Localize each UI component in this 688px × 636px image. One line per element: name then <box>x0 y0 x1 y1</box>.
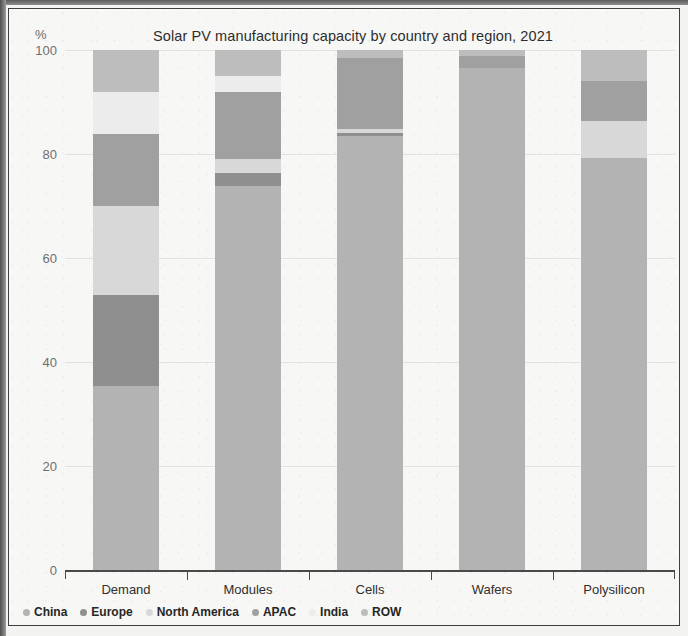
bar-segment-north-america <box>581 121 647 158</box>
bar-segment-north-america <box>215 159 281 173</box>
bar-polysilicon <box>581 50 647 570</box>
legend-label: China <box>34 605 67 619</box>
bar-demand <box>93 50 159 570</box>
bar-segment-row <box>93 50 159 92</box>
bar-segment-apac <box>93 134 159 206</box>
legend-swatch-icon <box>252 609 259 616</box>
x-axis-label-modules: Modules <box>223 582 272 597</box>
bar-segment-row <box>581 50 647 81</box>
x-axis-end-cap <box>65 570 66 579</box>
legend-swatch-icon <box>309 609 316 616</box>
x-axis-tick <box>309 571 310 580</box>
x-axis-line <box>65 570 675 572</box>
bar-segment-europe <box>337 133 403 136</box>
x-axis-label-wafers: Wafers <box>472 582 513 597</box>
legend-swatch-icon <box>146 609 153 616</box>
legend-item-apac[interactable]: APAC <box>252 605 296 619</box>
legend-item-row[interactable]: ROW <box>361 605 401 619</box>
plot-area: 020406080100 DemandModulesCellsWafersPol… <box>65 50 675 570</box>
bar-segment-india <box>215 76 281 92</box>
bar-segment-china <box>337 136 403 570</box>
bar-segment-row <box>337 50 403 58</box>
x-axis-label-cells: Cells <box>356 582 385 597</box>
bar-segment-apac <box>337 58 403 129</box>
bar-segment-apac <box>215 92 281 160</box>
bar-segment-china <box>93 386 159 570</box>
y-axis-tick-label: 20 <box>43 459 57 474</box>
y-axis-line <box>65 50 66 570</box>
legend-swatch-icon <box>23 609 30 616</box>
chart-sheet: % Solar PV manufacturing capacity by cou… <box>8 8 680 626</box>
legend-label: Europe <box>91 605 132 619</box>
legend-item-india[interactable]: India <box>309 605 348 619</box>
legend-label: India <box>320 605 348 619</box>
bar-modules <box>215 50 281 570</box>
x-axis-end-cap <box>674 570 675 579</box>
legend-label: ROW <box>372 605 401 619</box>
bar-segment-apac <box>581 81 647 121</box>
legend-swatch-icon <box>361 609 368 616</box>
legend-label: North America <box>157 605 239 619</box>
x-axis-tick <box>187 571 188 580</box>
y-axis-tick-label: 40 <box>43 355 57 370</box>
x-axis-label-demand: Demand <box>101 582 150 597</box>
bar-segment-europe <box>215 173 281 186</box>
bar-cells <box>337 50 403 570</box>
legend-item-china[interactable]: China <box>23 605 67 619</box>
chart-legend: ChinaEuropeNorth AmericaAPACIndiaROW <box>23 605 401 619</box>
bar-segment-china <box>215 186 281 570</box>
y-axis-tick-label: 0 <box>50 563 57 578</box>
bar-segment-china <box>459 68 525 570</box>
scanned-page: % Solar PV manufacturing capacity by cou… <box>0 0 688 636</box>
y-axis-tick-label: 100 <box>35 43 57 58</box>
legend-item-north-america[interactable]: North America <box>146 605 239 619</box>
legend-swatch-icon <box>80 609 87 616</box>
bar-segment-north-america <box>93 206 159 295</box>
bar-segment-row <box>215 50 281 76</box>
y-axis-tick-label: 60 <box>43 251 57 266</box>
x-axis-tick <box>553 571 554 580</box>
legend-label: APAC <box>263 605 296 619</box>
x-axis-label-polysilicon: Polysilicon <box>583 582 644 597</box>
bar-segment-india <box>93 92 159 134</box>
bar-segment-europe <box>93 295 159 386</box>
bar-segment-apac <box>459 56 525 68</box>
bar-segment-north-america <box>337 129 403 133</box>
bar-wafers <box>459 50 525 570</box>
legend-item-europe[interactable]: Europe <box>80 605 132 619</box>
chart-title: Solar PV manufacturing capacity by count… <box>9 28 688 44</box>
y-axis-tick-label: 80 <box>43 147 57 162</box>
bar-segment-china <box>581 158 647 570</box>
bar-segment-row <box>459 50 525 56</box>
x-axis-tick <box>431 571 432 580</box>
